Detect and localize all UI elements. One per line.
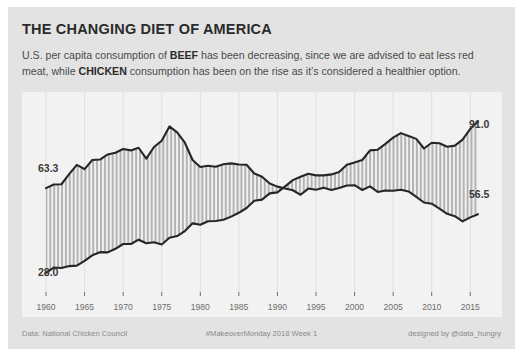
x-axis-tick-label: 1980 [191, 302, 210, 312]
x-axis-tick-label: 2015 [461, 302, 480, 312]
chicken-start-value-label: 28.0 [38, 266, 58, 278]
chicken-end-value-label: 91.0 [469, 118, 489, 130]
chart-card: THE CHANGING DIET OF AMERICA U.S. per ca… [8, 7, 515, 349]
footer-source: Data: National Chicken Council [22, 329, 127, 338]
chart-subtitle: U.S. per capita consumption of BEEF has … [22, 48, 500, 79]
subtitle-beef-keyword: BEEF [170, 49, 198, 61]
x-axis-tick-label: 1960 [36, 302, 55, 312]
x-axis-tick-label: 1985 [229, 302, 248, 312]
beef-start-value-label: 63.3 [38, 162, 58, 174]
x-axis-tick-label: 1995 [306, 302, 325, 312]
footer-credit: designed by @data_hungry [408, 329, 501, 338]
chart-footer: Data: National Chicken Council #Makeover… [8, 325, 515, 349]
subtitle-text-3: consumption has been on the rise as it’s… [127, 65, 461, 77]
x-axis-tick-label: 1990 [268, 302, 287, 312]
beef-end-value-label: 56.5 [469, 188, 489, 200]
x-axis-tick-label: 2010 [422, 302, 441, 312]
x-axis-tick-label: 2005 [384, 302, 403, 312]
x-axis-tick-label: 2000 [345, 302, 364, 312]
chart-svg [22, 92, 502, 317]
chart-plot-area: 63.3 28.0 91.0 56.5 19601965197019751980… [22, 92, 502, 317]
x-axis-tick-label: 1975 [152, 302, 171, 312]
x-axis-tick-label: 1965 [75, 302, 94, 312]
footer-project: #MakeoverMonday 2018 Week 1 [206, 329, 317, 338]
subtitle-chicken-keyword: CHICKEN [79, 65, 127, 77]
subtitle-text-1: U.S. per capita consumption of [22, 49, 170, 61]
x-axis-tick-label: 1970 [114, 302, 133, 312]
chart-x-tickmarks [46, 292, 470, 296]
page-title: THE CHANGING DIET OF AMERICA [22, 21, 272, 37]
